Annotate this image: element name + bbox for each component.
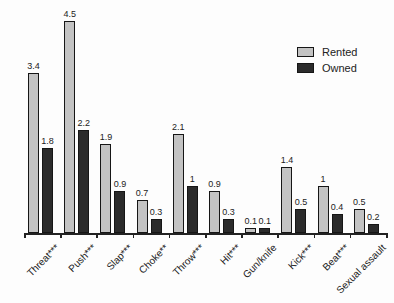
bar-owned-8 [295, 209, 306, 233]
bar-value-label: 0.9 [208, 179, 221, 189]
bar-value-label: 1.4 [281, 155, 294, 165]
bar-value-label: 1.8 [41, 136, 54, 146]
category-label: Threat*** [25, 242, 61, 278]
category-label: Slap*** [104, 242, 134, 272]
axis-tick [205, 233, 207, 238]
bar-value-label: 0.9 [114, 179, 127, 189]
bar-owned-4 [151, 219, 162, 233]
bar-value-label: 0.5 [353, 197, 366, 207]
bar-value-label: 0.3 [150, 207, 163, 217]
bar-value-label: 0.3 [222, 207, 235, 217]
bar-chart-figure: 3.41.8Threat***4.52.2Push***1.90.9Slap**… [0, 0, 394, 303]
bar-rented-6 [209, 191, 220, 233]
axis-tick [60, 233, 62, 238]
bar-owned-3 [114, 191, 125, 233]
bar-rented-8 [281, 167, 292, 233]
category-label: Choke** [137, 242, 171, 276]
bar-value-label: 1 [321, 174, 326, 184]
bar-value-label: 0.1 [244, 216, 257, 226]
axis-tick [386, 233, 388, 238]
legend: Rented Owned [297, 46, 357, 78]
category-label: Push*** [66, 242, 98, 274]
bar-rented-10 [354, 209, 365, 233]
axis-tick [133, 233, 135, 238]
bar-owned-5 [187, 186, 198, 233]
category-label: Throw*** [171, 242, 207, 278]
legend-label-rented: Rented [322, 46, 357, 58]
axis-tick [24, 233, 26, 238]
bar-owned-10 [368, 224, 379, 233]
bar-value-label: 2.2 [77, 118, 90, 128]
axis-tick [350, 233, 352, 238]
bar-rented-5 [173, 134, 184, 233]
bar-value-label: 1 [190, 174, 195, 184]
legend-item-owned: Owned [297, 62, 357, 74]
axis-tick [277, 233, 279, 238]
bar-value-label: 1.9 [100, 132, 113, 142]
category-label: Beat*** [321, 242, 352, 273]
category-label: Gun/knife [241, 242, 279, 280]
category-label: Kick*** [286, 242, 315, 271]
legend-item-rented: Rented [297, 46, 357, 58]
bar-value-label: 2.1 [172, 122, 185, 132]
rented-swatch-icon [297, 47, 314, 57]
bar-owned-7 [259, 228, 270, 233]
bar-value-label: 4.5 [63, 9, 76, 19]
bar-rented-2 [64, 21, 75, 233]
axis-tick [169, 233, 171, 238]
bar-rented-3 [100, 144, 111, 233]
category-label: Hit*** [218, 242, 243, 267]
bar-rented-9 [318, 186, 329, 233]
axis-tick [96, 233, 98, 238]
legend-label-owned: Owned [322, 62, 357, 74]
bar-value-label: 0.1 [258, 216, 271, 226]
bar-owned-9 [332, 214, 343, 233]
bar-owned-2 [78, 130, 89, 233]
bar-value-label: 3.4 [27, 61, 40, 71]
axis-tick [241, 233, 243, 238]
axis-tick [314, 233, 316, 238]
bar-value-label: 0.5 [295, 197, 308, 207]
bar-rented-1 [28, 73, 39, 233]
owned-swatch-icon [297, 63, 314, 73]
bar-value-label: 0.2 [367, 212, 380, 222]
bar-rented-4 [137, 200, 148, 233]
bar-value-label: 0.7 [136, 188, 149, 198]
bar-rented-7 [245, 228, 256, 233]
bar-owned-1 [42, 148, 53, 233]
bar-value-label: 0.4 [331, 202, 344, 212]
bar-owned-6 [223, 219, 234, 233]
